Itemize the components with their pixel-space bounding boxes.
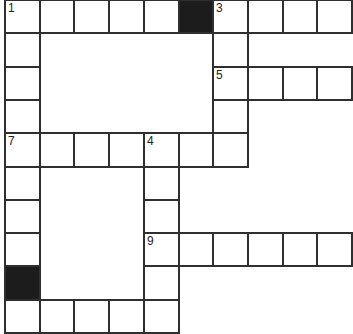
grid-cell[interactable]: [282, 66, 318, 101]
grid-cell[interactable]: [4, 199, 41, 234]
grid-cell[interactable]: [247, 232, 284, 267]
grid-cell[interactable]: [178, 232, 214, 267]
grid-cell[interactable]: [4, 166, 41, 201]
grid-cell[interactable]: [39, 299, 75, 334]
grid-cell[interactable]: 3: [212, 0, 249, 34]
grid-cell[interactable]: [143, 0, 180, 34]
grid-cell[interactable]: 1: [4, 0, 41, 34]
grid-cell[interactable]: [4, 66, 41, 101]
grid-cell[interactable]: [247, 66, 284, 101]
grid-cell[interactable]: [73, 132, 110, 168]
grid-cell[interactable]: [143, 265, 180, 301]
grid-cell[interactable]: [282, 232, 318, 267]
clue-number: 7: [8, 134, 15, 148]
grid-cell[interactable]: 7: [4, 132, 41, 168]
grid-cell[interactable]: [316, 232, 353, 267]
grid-cell[interactable]: [316, 0, 353, 34]
black-cell: [4, 265, 41, 301]
grid-cell[interactable]: [143, 199, 180, 234]
clue-number: 5: [216, 68, 223, 82]
grid-cell[interactable]: [73, 0, 110, 34]
grid-cell[interactable]: [316, 66, 353, 101]
grid-cell[interactable]: [108, 299, 145, 334]
grid-cell[interactable]: [73, 299, 110, 334]
grid-cell[interactable]: [212, 99, 249, 134]
grid-cell[interactable]: [4, 99, 41, 134]
grid-cell[interactable]: [108, 0, 145, 34]
clue-number: 9: [147, 234, 154, 248]
grid-cell[interactable]: [143, 299, 180, 334]
grid-cell[interactable]: [4, 232, 41, 267]
grid-cell[interactable]: [212, 132, 249, 168]
clue-number: 1: [8, 1, 15, 15]
grid-cell[interactable]: 5: [212, 66, 249, 101]
grid-cell[interactable]: [282, 0, 318, 34]
grid-cell[interactable]: [39, 132, 75, 168]
grid-cell[interactable]: [247, 0, 284, 34]
grid-cell[interactable]: [212, 32, 249, 68]
black-cell: [178, 0, 214, 34]
grid-cell[interactable]: [4, 299, 41, 334]
grid-cell[interactable]: [212, 232, 249, 267]
grid-cell[interactable]: [143, 166, 180, 201]
grid-cell[interactable]: [108, 132, 145, 168]
grid-cell[interactable]: [39, 0, 75, 34]
grid-cell[interactable]: 4: [143, 132, 180, 168]
grid-cell[interactable]: 9: [143, 232, 180, 267]
clue-number: 4: [147, 134, 154, 148]
grid-cell[interactable]: [4, 32, 41, 68]
grid-cell[interactable]: [178, 132, 214, 168]
clue-number: 3: [216, 1, 223, 15]
